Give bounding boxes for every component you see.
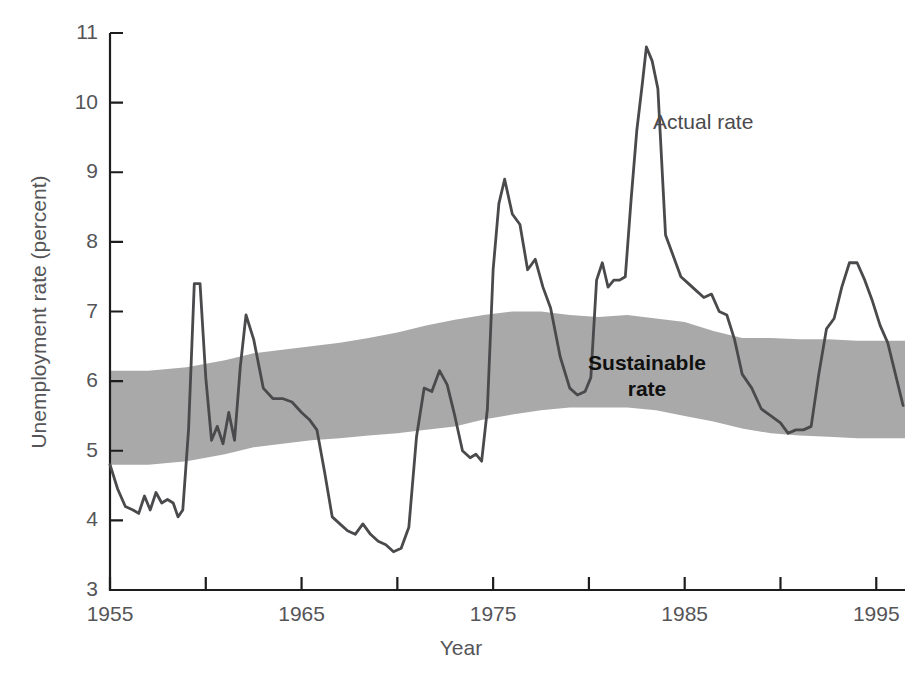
y-tick-label: 11 (58, 20, 98, 44)
y-tick-label: 9 (58, 159, 98, 183)
tick-mark-paths (110, 33, 876, 590)
x-axis-title: Year (0, 636, 922, 660)
x-tick-label: 1965 (262, 602, 342, 626)
sustainable-rate-annotation: Sustainablerate (562, 350, 732, 403)
sustainable-rate-annotation-line: rate (562, 376, 732, 402)
sustainable-rate-band (110, 312, 905, 465)
y-tick-label: 4 (58, 507, 98, 531)
y-axis-title: Unemployment rate (percent) (27, 87, 51, 537)
y-tick-label: 7 (58, 299, 98, 323)
sustainable-rate-annotation-line: Sustainable (562, 350, 732, 376)
x-tick-label: 1955 (70, 602, 150, 626)
y-tick-label: 3 (58, 577, 98, 601)
x-tick-label: 1985 (645, 602, 725, 626)
x-tick-label: 1995 (836, 602, 916, 626)
actual-rate-line (110, 47, 903, 552)
chart-canvas (0, 0, 922, 679)
y-tick-label: 8 (58, 229, 98, 253)
actual-rate-annotation: Actual rate (653, 110, 753, 134)
unemployment-rate-chart: 34567891011 19551965197519851995 Unemplo… (0, 0, 922, 679)
x-tick-label: 1975 (453, 602, 533, 626)
y-tick-label: 6 (58, 368, 98, 392)
y-tick-label: 5 (58, 438, 98, 462)
y-tick-label: 10 (58, 90, 98, 114)
chart-axes (110, 33, 905, 590)
